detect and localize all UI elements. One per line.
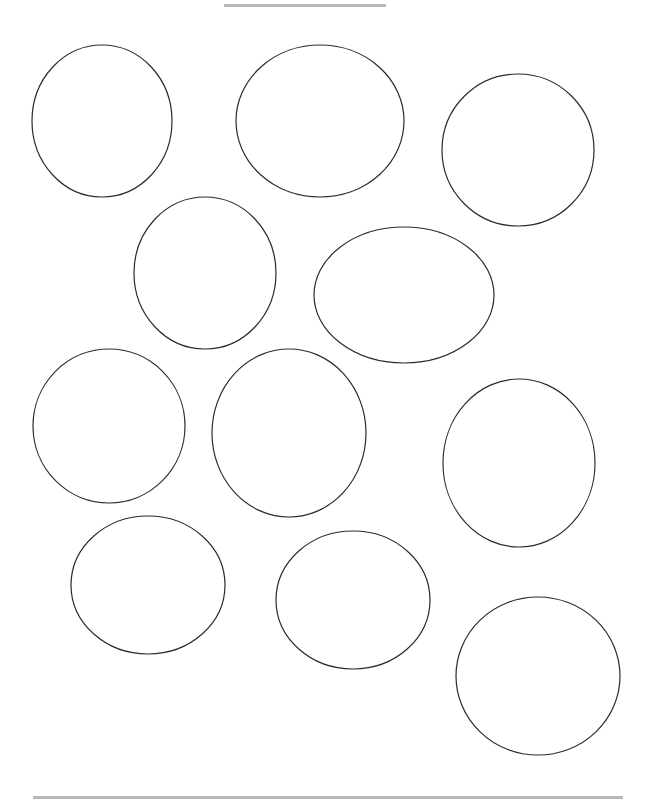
circles-canvas: [0, 0, 650, 804]
bottom-divider-bar: [33, 796, 623, 799]
circle-10-outline: [276, 531, 430, 669]
circle-5-outline: [314, 227, 494, 363]
circle-2-outline: [236, 45, 404, 197]
circle-7-outline: [212, 349, 366, 517]
circle-8-outline: [443, 379, 595, 547]
circle-1-outline: [32, 45, 172, 197]
circle-9-outline: [71, 516, 225, 654]
circle-4-outline: [134, 197, 276, 349]
circle-6-outline: [33, 349, 185, 503]
circle-11-outline: [456, 597, 620, 755]
worksheet-page: [0, 0, 650, 804]
circle-3-outline: [442, 74, 594, 226]
